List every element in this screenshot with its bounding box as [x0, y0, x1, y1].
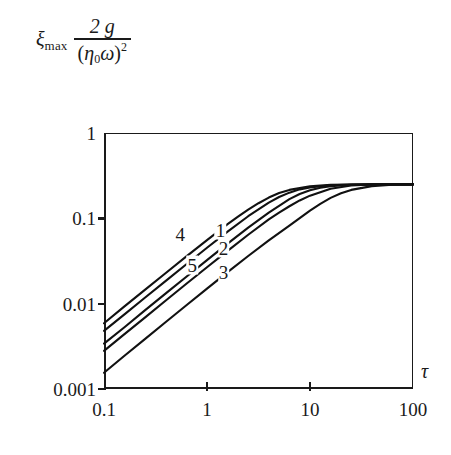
eta-symbol: η: [84, 41, 94, 63]
x-tick-label: 100: [399, 400, 428, 419]
x-tick-mark: [309, 382, 311, 391]
xi-subscript: max: [45, 38, 68, 53]
x-tick-label: 0.1: [92, 400, 116, 419]
omega-symbol: ω: [100, 41, 114, 63]
paren-close: ): [114, 41, 121, 63]
curve-label-3: 3: [218, 263, 230, 282]
x-tick-label: 1: [202, 400, 212, 419]
y-tick-label: 0.01: [63, 294, 96, 313]
y-axis-label-variable: ξmax: [36, 29, 68, 52]
curve-4: [104, 184, 413, 323]
y-tick-mark: [98, 303, 106, 305]
curve-label-4: 4: [175, 225, 187, 244]
x-axis-label: τ: [421, 361, 428, 381]
y-tick-label: 0.001: [53, 380, 96, 399]
x-tick-mark: [206, 382, 208, 391]
x-tick-label: 10: [301, 400, 320, 419]
y-tick-label: 1: [87, 124, 97, 143]
y-tick-label: 0.1: [72, 209, 96, 228]
y-axis-label-fraction: 2 g (η0ω)2: [74, 16, 131, 65]
curve-3: [104, 184, 413, 372]
fraction-numerator: 2 g: [86, 16, 119, 38]
xi-symbol: ξ: [36, 28, 45, 50]
y-tick-mark: [98, 217, 106, 219]
curve-label-2: 2: [218, 238, 230, 257]
y-tick-mark: [98, 388, 106, 390]
chart-curves: [104, 133, 413, 389]
denominator-exponent: 2: [121, 40, 127, 54]
y-axis-label: ξmax 2 g (η0ω)2: [36, 16, 131, 65]
curve-1: [104, 184, 413, 330]
fraction-denominator: (η0ω)2: [74, 40, 131, 65]
curve-label-5: 5: [187, 255, 199, 274]
figure-container: ξmax 2 g (η0ω)2 0.0010.010.110.1110100 1…: [0, 0, 451, 455]
